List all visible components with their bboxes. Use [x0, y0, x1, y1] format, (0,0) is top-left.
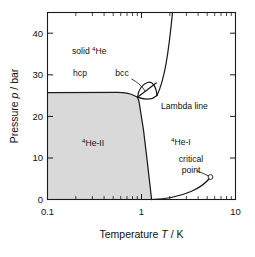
- label-critical-point-line2: point: [182, 165, 201, 175]
- phase-diagram-figure: 40 30 20 10 0: [0, 0, 255, 257]
- x-axis-title-suffix: / K: [168, 228, 184, 240]
- phase-diagram-svg: 40 30 20 10 0: [0, 0, 255, 257]
- x-tick-label-0p1: 0.1: [41, 206, 54, 217]
- x-axis-title-prefix: Temperature: [99, 228, 161, 240]
- y-axis-title-suffix: / bar: [8, 68, 20, 92]
- y-axis-title: Pressure p / bar: [8, 68, 20, 143]
- y-tick-label-10: 10: [32, 152, 43, 163]
- curve-melting-bcc-upper: [157, 13, 173, 96]
- label-lambda-line: Lambda line: [161, 101, 208, 111]
- y-tick-label-40: 40: [32, 28, 43, 39]
- y-axis-title-prefix: Pressure: [8, 98, 20, 143]
- label-solid-he4: solid 4He: [72, 45, 107, 57]
- curve-bcc-pocket-lower: [138, 96, 158, 100]
- y-tick-label-20: 20: [32, 111, 43, 122]
- x-axis-tick-labels: 0.1 1 10: [41, 206, 241, 217]
- x-tick-label-10: 10: [230, 206, 241, 217]
- label-he4-i: 4He-I: [171, 136, 191, 148]
- critical-point-marker: [208, 175, 213, 180]
- y-tick-label-30: 30: [32, 69, 43, 80]
- y-axis-tick-labels: 40 30 20 10 0: [32, 28, 43, 205]
- label-bcc: bcc: [115, 68, 129, 78]
- y-tick-label-0: 0: [38, 194, 43, 205]
- label-he4-ii: 4He-II: [82, 137, 104, 149]
- x-tick-label-1: 1: [139, 206, 144, 217]
- label-he2-main: He-II: [85, 138, 104, 148]
- x-axis-title: Temperature T / K: [99, 228, 183, 240]
- label-solid-prefix: solid: [72, 46, 92, 56]
- label-solid-main: He: [96, 46, 107, 56]
- label-critical-point-line1: critical: [179, 154, 203, 164]
- label-hcp: hcp: [73, 68, 87, 78]
- curve-vapour-pressure: [152, 178, 210, 200]
- label-he1-main: He-I: [174, 137, 190, 147]
